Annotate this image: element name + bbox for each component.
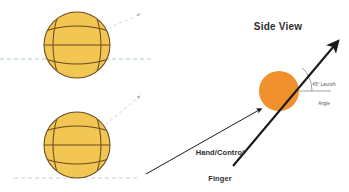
- launch-angle-label: 45° Launch Angle: [303, 70, 345, 120]
- figure-canvas: Side View Hand/Control Finger 45° Launch…: [0, 0, 349, 192]
- hand-control-label-line2: Finger: [183, 175, 257, 184]
- hand-control-label-line1: Hand/Control: [183, 149, 257, 158]
- hand-control-finger-label: Hand/Control Finger: [183, 131, 257, 192]
- side-view-ball-body: [259, 71, 299, 111]
- launch-angle-label-line2: Angle: [303, 101, 345, 107]
- side-view-title: Side View: [243, 21, 313, 33]
- launch-angle-label-line1: 45° Launch: [303, 82, 345, 88]
- top-ball-group: [0, 12, 152, 78]
- bottom-ball-group: [14, 96, 140, 178]
